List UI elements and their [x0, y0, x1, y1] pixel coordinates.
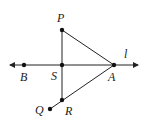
label-q: Q [35, 103, 44, 117]
label-r: R [64, 104, 73, 118]
point-p [60, 28, 64, 32]
label-l: l [124, 47, 128, 61]
label-b: B [20, 70, 28, 84]
label-a: A [107, 70, 116, 84]
point-a [112, 63, 116, 67]
point-r [60, 98, 64, 102]
geometry-diagram: P S A B R Q l [0, 0, 150, 123]
label-p: P [56, 11, 65, 25]
segment-aq [50, 65, 114, 109]
label-s: S [51, 69, 57, 83]
segment-pa [62, 30, 114, 65]
point-s [60, 63, 64, 67]
point-b [22, 63, 26, 67]
point-q [48, 107, 52, 111]
